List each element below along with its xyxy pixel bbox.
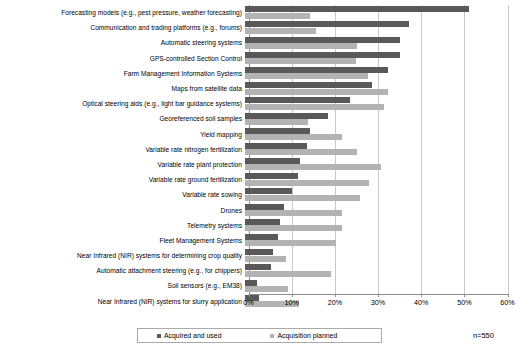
chart-row: Variable rate sowing xyxy=(0,187,531,202)
chart-row: Near Infrared (NIR) systems for slurry a… xyxy=(0,294,531,309)
bar-group xyxy=(245,51,531,66)
bar-chart: Forecasting models (e.g., pest pressure,… xyxy=(0,0,531,360)
category-label: GPS-controlled Section Control xyxy=(0,55,245,62)
plot-area: Forecasting models (e.g., pest pressure,… xyxy=(0,0,531,312)
bar-acquisition-planned xyxy=(245,119,308,125)
bar-acquisition-planned xyxy=(245,286,288,292)
tick-mark-20% xyxy=(335,294,336,297)
x-tick-label: 20% xyxy=(328,298,342,307)
bar-acquisition-planned xyxy=(245,43,357,49)
category-label: Automatic steering systems xyxy=(0,39,245,46)
bar-acquisition-planned xyxy=(245,164,381,170)
legend-swatch-acquired-and-used xyxy=(157,334,161,338)
chart-row: Georeferenced soil samples xyxy=(0,111,531,126)
bar-acquisition-planned xyxy=(245,28,316,34)
bar-acquisition-planned xyxy=(245,195,360,201)
category-label: Yield mapping xyxy=(0,131,245,138)
chart-row: Variable rate plant protection xyxy=(0,157,531,172)
bar-group xyxy=(245,96,531,111)
bar-group xyxy=(245,218,531,233)
tick-mark-10% xyxy=(292,294,293,297)
category-label: Telemetry systems xyxy=(0,222,245,229)
bar-acquisition-planned xyxy=(245,271,331,277)
chart-row: GPS-controlled Section Control xyxy=(0,51,531,66)
category-label: Automatic attachment steering (e.g., for… xyxy=(0,267,245,274)
bar-group xyxy=(245,278,531,293)
tick-mark-60% xyxy=(508,294,509,297)
bar-acquisition-planned xyxy=(245,149,357,155)
x-tick-label: 40% xyxy=(414,298,428,307)
bar-acquisition-planned xyxy=(245,89,388,95)
bar-group xyxy=(245,233,531,248)
bar-group xyxy=(245,66,531,81)
bar-group xyxy=(245,81,531,96)
bar-acquired-and-used xyxy=(245,143,307,149)
legend-item-acquisition-planned: Acquisition planned xyxy=(270,332,337,340)
bar-acquisition-planned xyxy=(245,104,384,110)
bar-group xyxy=(245,127,531,142)
chart-row: Drones xyxy=(0,202,531,217)
bar-acquired-and-used xyxy=(245,128,310,134)
bar-group xyxy=(245,187,531,202)
chart-row: Farm Management Information Systems xyxy=(0,66,531,81)
chart-row: Maps from satellite data xyxy=(0,81,531,96)
bar-acquired-and-used xyxy=(245,158,300,164)
bar-acquired-and-used xyxy=(245,6,469,12)
bar-acquired-and-used xyxy=(245,82,372,88)
bar-acquisition-planned xyxy=(245,240,336,246)
chart-row: Telemetry systems xyxy=(0,218,531,233)
bar-acquired-and-used xyxy=(245,21,409,27)
bar-acquired-and-used xyxy=(245,52,400,58)
bar-acquired-and-used xyxy=(245,113,328,119)
chart-row: Optical steering aids (e.g., light bar g… xyxy=(0,96,531,111)
bar-acquisition-planned xyxy=(245,180,369,186)
chart-row: Automatic steering systems xyxy=(0,35,531,50)
bar-acquired-and-used xyxy=(245,173,298,179)
bar-group xyxy=(245,248,531,263)
bar-acquired-and-used xyxy=(245,249,273,255)
tick-mark-0% xyxy=(249,294,250,297)
category-label: Near Infrared (NIR) systems for slurry a… xyxy=(0,298,245,305)
bar-acquisition-planned xyxy=(245,58,356,64)
bar-acquired-and-used xyxy=(245,234,278,240)
x-tick-label: 0% xyxy=(243,298,253,307)
chart-row: Variable rate nitrogen fertilization xyxy=(0,142,531,157)
bar-rows: Forecasting models (e.g., pest pressure,… xyxy=(0,5,531,309)
x-tick-label: 10% xyxy=(284,298,298,307)
category-label: Optical steering aids (e.g., light bar g… xyxy=(0,100,245,107)
bar-acquisition-planned xyxy=(245,13,310,19)
chart-row: Soil sensors (e.g., EM38) xyxy=(0,278,531,293)
category-label: Variable rate ground fertilization xyxy=(0,176,245,183)
tick-mark-30% xyxy=(378,294,379,297)
bar-group xyxy=(245,263,531,278)
chart-row: Near Infrared (NIR) systems for determin… xyxy=(0,248,531,263)
chart-row: Forecasting models (e.g., pest pressure,… xyxy=(0,5,531,20)
category-label: Georeferenced soil samples xyxy=(0,115,245,122)
chart-row: Yield mapping xyxy=(0,127,531,142)
bar-group xyxy=(245,172,531,187)
bar-group xyxy=(245,35,531,50)
category-label: Soil sensors (e.g., EM38) xyxy=(0,282,245,289)
category-label: Communication and trading platforms (e.g… xyxy=(0,24,245,31)
legend-label-acquisition-planned: Acquisition planned xyxy=(277,332,337,340)
bar-acquisition-planned xyxy=(245,134,342,140)
bar-acquired-and-used xyxy=(245,280,257,286)
category-label: Forecasting models (e.g., pest pressure,… xyxy=(0,9,245,16)
category-label: Variable rate sowing xyxy=(0,191,245,198)
x-tick-label: 50% xyxy=(457,298,471,307)
chart-row: Fleet Management Systems xyxy=(0,233,531,248)
legend-swatch-acquisition-planned xyxy=(270,334,274,338)
category-label: Drones xyxy=(0,207,245,214)
bar-group xyxy=(245,5,531,20)
bar-group xyxy=(245,20,531,35)
tick-mark-50% xyxy=(464,294,465,297)
category-label: Near Infrared (NIR) systems for determin… xyxy=(0,252,245,259)
chart-row: Automatic attachment steering (e.g., for… xyxy=(0,263,531,278)
bar-acquired-and-used xyxy=(245,204,284,210)
category-label: Variable rate nitrogen fertilization xyxy=(0,146,245,153)
legend-item-acquired-and-used: Acquired and used xyxy=(157,332,221,340)
bar-acquired-and-used xyxy=(245,37,400,43)
bar-acquisition-planned xyxy=(245,225,342,231)
category-label: Maps from satellite data xyxy=(0,85,245,92)
bar-acquired-and-used xyxy=(245,67,388,73)
